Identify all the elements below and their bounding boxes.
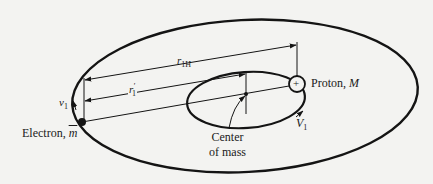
v1-sub: 1 [64, 102, 68, 111]
proton-plus-sign: + [293, 78, 299, 89]
center-of-mass-line2: of mass [209, 145, 246, 160]
V1-label: V1 [296, 117, 307, 132]
electron-label-text: Electron, [22, 126, 69, 140]
electron-proton-line [82, 86, 289, 122]
electron-mass-symbol: m [69, 126, 78, 140]
r1prime-sub: 1 [132, 89, 136, 98]
v1-label: v1 [59, 97, 68, 111]
proton-label: Proton, M [311, 77, 359, 89]
V1-sub: 1 [303, 123, 307, 132]
proton-label-text: Proton, [311, 76, 349, 90]
proton-mass-symbol: M [349, 76, 359, 90]
electron-dot [78, 118, 86, 126]
r1H-sub: 1H [181, 60, 191, 69]
r1prime-dimension-arrow [85, 74, 245, 101]
center-of-mass-dot [244, 92, 248, 96]
center-of-mass-line1: Center [209, 130, 246, 145]
r1H-label: r1H [177, 55, 191, 69]
electron-label: Electron, m [22, 127, 77, 139]
cm-leader-arrow [229, 96, 245, 128]
r1prime-label: r′1 [128, 83, 137, 98]
center-of-mass-label: Center of mass [209, 130, 246, 160]
